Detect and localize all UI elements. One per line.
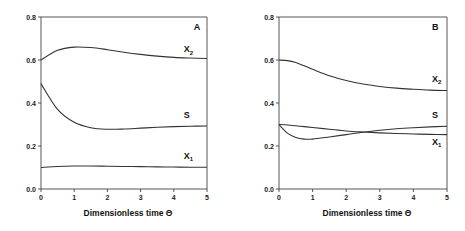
series-line-x2 bbox=[279, 60, 447, 91]
x-tick-label: 0 bbox=[39, 194, 43, 201]
x-tick-label: 4 bbox=[411, 194, 415, 201]
series-label-x1: X1 bbox=[432, 137, 442, 149]
series-line-x1 bbox=[279, 125, 447, 135]
panel-label: B bbox=[432, 22, 439, 32]
series-label-s: S bbox=[184, 110, 190, 120]
x-tick-label: 2 bbox=[105, 194, 109, 201]
x-tick-label: 0 bbox=[277, 194, 281, 201]
series-line-x2 bbox=[41, 47, 207, 60]
figure: 0.00.20.40.60.8012345Dimensionless time … bbox=[0, 0, 465, 231]
series-line-s bbox=[41, 84, 207, 130]
chart-panel-a: 0.00.20.40.60.8012345Dimensionless time … bbox=[26, 14, 209, 219]
y-tick-label: 0.8 bbox=[264, 14, 274, 21]
x-tick-label: 1 bbox=[72, 194, 76, 201]
x-tick-label: 3 bbox=[378, 194, 382, 201]
y-tick-label: 0.2 bbox=[264, 143, 274, 150]
x-tick-label: 1 bbox=[311, 194, 315, 201]
x-axis-label: Dimensionless time Θ bbox=[84, 208, 173, 218]
x-tick-label: 5 bbox=[205, 194, 209, 201]
plot-frame bbox=[279, 17, 447, 189]
series-line-x1 bbox=[41, 166, 207, 168]
y-tick-label: 0.6 bbox=[264, 57, 274, 64]
series-label-x2: X2 bbox=[184, 44, 194, 56]
panel-label: A bbox=[194, 22, 201, 32]
y-tick-label: 0.0 bbox=[26, 186, 36, 193]
series-label-x1: X1 bbox=[184, 151, 194, 163]
y-tick-label: 0.0 bbox=[264, 186, 274, 193]
series-label-s: S bbox=[432, 110, 438, 120]
y-tick-label: 0.2 bbox=[26, 143, 36, 150]
y-tick-label: 0.8 bbox=[26, 14, 36, 21]
chart-panel-b: 0.00.20.40.60.8012345Dimensionless time … bbox=[264, 14, 449, 219]
x-tick-label: 5 bbox=[445, 194, 449, 201]
y-tick-label: 0.4 bbox=[26, 100, 36, 107]
plot-frame bbox=[41, 17, 207, 189]
series-label-x2: X2 bbox=[432, 74, 442, 86]
y-tick-label: 0.4 bbox=[264, 100, 274, 107]
y-tick-label: 0.6 bbox=[26, 57, 36, 64]
x-tick-label: 3 bbox=[139, 194, 143, 201]
x-tick-label: 2 bbox=[344, 194, 348, 201]
x-tick-label: 4 bbox=[172, 194, 176, 201]
x-axis-label: Dimensionless time Θ bbox=[323, 208, 412, 218]
